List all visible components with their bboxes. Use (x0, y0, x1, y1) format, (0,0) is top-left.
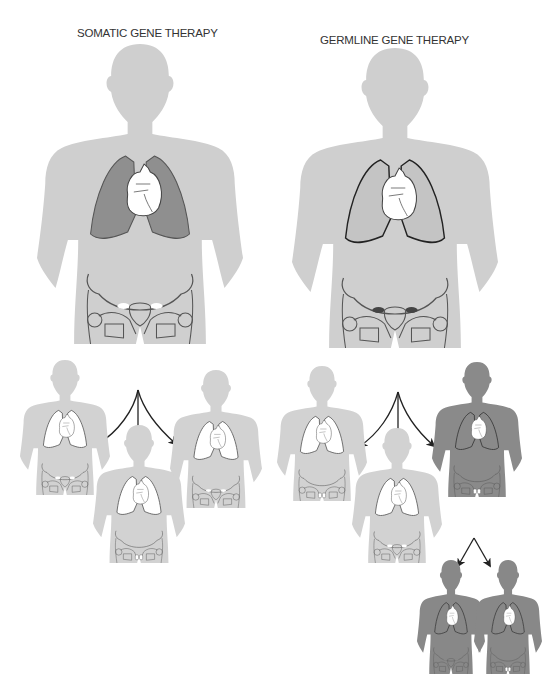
germline-grandchild-right-treated (474, 560, 542, 674)
germline-offspring-center (352, 428, 442, 563)
somatic-parent-figure (37, 44, 243, 344)
germline-offspring-left (277, 366, 367, 501)
germline-grandchild-left-treated (417, 560, 485, 674)
germline-offspring-right-treated (432, 362, 522, 497)
somatic-offspring-right (170, 370, 262, 508)
somatic-offspring-left (20, 360, 110, 495)
germline-parent-figure (292, 48, 498, 348)
